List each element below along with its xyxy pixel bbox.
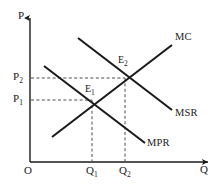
y-axis-label: P <box>18 10 24 21</box>
quantity-tick-q1-letter: Q <box>86 164 94 176</box>
quantity-tick-q2-letter: Q <box>119 164 127 176</box>
quantity-tick-q1-sub: 1 <box>94 170 98 179</box>
x-axis-label: Q <box>200 164 208 175</box>
economics-diagram: P Q O P2 P1 Q1 Q2 MC MSR MPR E1 E2 <box>0 0 221 187</box>
curve-label-msr: MSR <box>175 108 198 119</box>
price-tick-p1: P1 <box>13 93 23 107</box>
origin-label: O <box>24 165 32 176</box>
curve-label-mc: MC <box>175 32 192 43</box>
price-tick-p2: P2 <box>13 71 23 85</box>
curve-msr <box>78 38 172 110</box>
price-tick-p2-sub: 2 <box>19 76 23 85</box>
quantity-tick-q2-sub: 2 <box>127 170 131 179</box>
diagram-canvas <box>0 0 221 187</box>
curve-label-mpr: MPR <box>147 138 170 149</box>
price-tick-p1-sub: 1 <box>19 98 23 107</box>
quantity-tick-q1: Q1 <box>86 165 98 179</box>
equilibrium-label-e2-sub: 2 <box>124 59 128 68</box>
quantity-tick-q2: Q2 <box>119 165 131 179</box>
equilibrium-label-e1: E1 <box>85 84 95 97</box>
equilibrium-label-e1-sub: 1 <box>91 88 95 97</box>
curve-mc <box>52 45 172 137</box>
equilibrium-label-e2: E2 <box>118 55 128 68</box>
